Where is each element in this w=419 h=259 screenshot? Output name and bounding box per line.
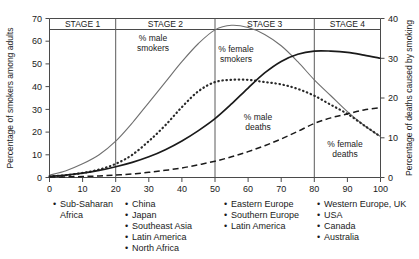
left-tick-label-50: 50 — [32, 59, 42, 69]
legend-column-2: • China • Japan • Southeast Asia • Latin… — [125, 199, 192, 253]
x-tick-label-80: 80 — [309, 184, 319, 194]
legend-bullet-icon: • — [317, 199, 320, 209]
legend-item-col3-2: Latin America — [231, 221, 286, 231]
x-tick-label-20: 20 — [111, 184, 121, 194]
legend-item-col2-0: China — [132, 199, 156, 209]
legend-bullet-icon: • — [317, 210, 320, 220]
x-tick-label-100: 100 — [373, 184, 388, 194]
legend-column-4: • Western Europe, UK • USA • Canada • Au… — [317, 199, 406, 242]
legend-bullet-icon: • — [125, 221, 128, 231]
legend-item-sub-saharan-africa-line2: Africa — [60, 210, 83, 220]
right-tick-label-0: 0 — [388, 173, 393, 183]
legend-item-col4-1: USA — [324, 210, 343, 220]
legend-bullet-icon: • — [125, 232, 128, 242]
label-female-deaths-line1: % female — [327, 139, 363, 149]
legend-item-col2-2: Southeast Asia — [132, 221, 192, 231]
legend-bullet-icon: • — [125, 210, 128, 220]
left-tick-label-40: 40 — [32, 82, 42, 92]
right-axis-title: Percentage of deaths caused by smoking — [404, 20, 414, 176]
stage-label-2: STAGE 2 — [148, 19, 184, 29]
x-tick-label-50: 50 — [210, 184, 220, 194]
stage-label-3: STAGE 3 — [247, 19, 283, 29]
label-female-deaths-line2: deaths — [332, 149, 358, 159]
x-tick-label-90: 90 — [342, 184, 352, 194]
left-axis-title: Percentage of smokers among adults — [5, 28, 15, 169]
legend-item-col4-3: Australia — [324, 232, 359, 242]
legend-bullet-icon: • — [317, 221, 320, 231]
label-male-smokers-line1: % male — [139, 33, 168, 43]
label-female-smokers-line1: % female — [218, 44, 254, 54]
legend-item-col2-4: North Africa — [132, 243, 179, 253]
label-female-smokers-line2: smokers — [220, 54, 252, 64]
legend-bullet-icon: • — [125, 199, 128, 209]
x-axis-ticks: 0 10 20 30 40 50 60 70 80 90 100 — [47, 178, 388, 194]
right-tick-label-10: 10 — [388, 133, 398, 143]
legend-column-3: • Eastern Europe • Southern Europe • Lat… — [224, 199, 299, 231]
legend-bullet-icon: • — [317, 232, 320, 242]
legend-bullet-icon: • — [224, 199, 227, 209]
left-tick-label-30: 30 — [32, 105, 42, 115]
left-tick-label-0: 0 — [37, 173, 42, 183]
left-tick-label-20: 20 — [32, 127, 42, 137]
right-tick-label-20: 20 — [388, 93, 398, 103]
smoking-epidemic-figure: 0 10 20 30 40 50 60 70 0 10 20 30 40 — [0, 0, 419, 259]
x-tick-label-0: 0 — [47, 184, 52, 194]
series-annotations: % male smokers % female smokers % male d… — [137, 33, 363, 159]
label-male-smokers-line2: smokers — [137, 43, 169, 53]
legend-column-1: • Sub-Saharan Africa Sub-Saharan Africa — [0, 0, 113, 220]
right-tick-label-40: 40 — [388, 14, 398, 24]
left-tick-label-10: 10 — [32, 150, 42, 160]
x-tick-label-10: 10 — [78, 184, 88, 194]
legend-item-sub-saharan-africa-line1: Sub-Saharan — [60, 199, 113, 209]
legend-item-col2-3: Latin America — [132, 232, 187, 242]
left-tick-label-60: 60 — [32, 36, 42, 46]
label-male-deaths-line1: % male — [244, 112, 273, 122]
legend-item-col4-0: Western Europe, UK — [324, 199, 406, 209]
legend-item-col2-1: Japan — [132, 210, 157, 220]
left-tick-label-70: 70 — [32, 14, 42, 24]
x-tick-label-30: 30 — [144, 184, 154, 194]
legend-bullet-icon: • — [224, 210, 227, 220]
legend-bullet-icon: • — [125, 243, 128, 253]
legend-bullet-icon: • — [53, 199, 56, 209]
chart-canvas: 0 10 20 30 40 50 60 70 0 10 20 30 40 — [0, 0, 419, 259]
legend-item-col3-1: Southern Europe — [231, 210, 299, 220]
right-axis-ticks: 0 10 20 30 40 — [381, 14, 399, 183]
legend-item-col4-2: Canada — [324, 221, 356, 231]
stage-label-4: STAGE 4 — [330, 19, 366, 29]
label-male-deaths-line2: deaths — [245, 122, 271, 132]
legend-bullet-icon: • — [224, 221, 227, 231]
right-tick-label-30: 30 — [388, 54, 398, 64]
left-axis-ticks: 0 10 20 30 40 50 60 70 — [32, 14, 50, 183]
legend-item-col3-0: Eastern Europe — [231, 199, 294, 209]
x-tick-label-60: 60 — [243, 184, 253, 194]
x-tick-label-70: 70 — [276, 184, 286, 194]
stage-label-1: STAGE 1 — [65, 19, 101, 29]
x-tick-label-40: 40 — [177, 184, 187, 194]
